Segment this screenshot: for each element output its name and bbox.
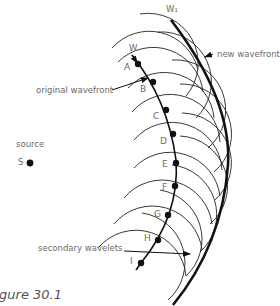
source-label: source [16,140,44,149]
figure-caption: Figure 30.1 [0,287,62,302]
w1-label: W₁ [166,5,178,14]
new-wavefront-arrow [205,54,213,57]
point-label-d: D [160,137,167,146]
huygens-wavefront-figure: W₁ W new wavefront original wavefront so… [0,0,280,306]
secondary-wavelets-arrow [124,251,190,254]
original-wavefront-curve [132,55,176,263]
point-label-i: I [130,257,133,266]
point-label-h: H [144,234,151,243]
secondary-wavelets [98,13,232,300]
new-wavefront-curve [171,20,228,305]
point-label-f: F [162,183,167,192]
point-label-a: A [124,63,130,72]
w-label: W [129,44,137,53]
original-wavefront-label: original wavefront [36,86,113,95]
source-dot [27,160,34,167]
point-label-e: E [162,160,168,169]
point-label-g: G [154,210,161,219]
new-wavefront-label: new wavefront [217,50,280,59]
secondary-wavelets-label: secondary wavelets [38,244,123,253]
source-point-label: S [18,158,23,167]
diagram-canvas [0,0,280,306]
point-label-c: C [153,112,159,121]
point-label-b: B [140,85,146,94]
